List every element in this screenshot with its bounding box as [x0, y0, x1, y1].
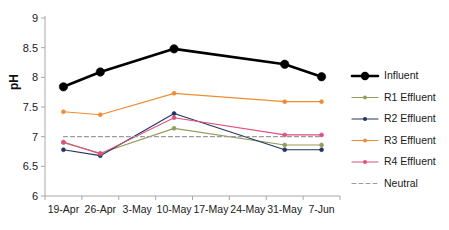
- data-point: [59, 83, 67, 91]
- x-tick-label: 3-May: [123, 203, 153, 215]
- data-point: [317, 73, 325, 81]
- x-tick-label: 10-May: [157, 203, 193, 215]
- chart-legend: InfluentR1 EffluentR2 EffluentR3 Effluen…: [352, 69, 436, 189]
- series-layer: [59, 45, 326, 158]
- y-tick-label: 9: [32, 12, 38, 24]
- legend-swatch-marker: [363, 96, 367, 100]
- y-tick-labels: 66.577.588.59: [23, 12, 38, 202]
- data-point: [172, 116, 176, 120]
- x-tick-label: 7-Jun: [308, 203, 334, 215]
- legend-label: R1 Effluent: [384, 91, 436, 103]
- x-tick-label: 19-Apr: [48, 203, 80, 215]
- legend-item-r4-effluent[interactable]: R4 Effluent: [352, 155, 436, 167]
- legend-item-r1-effluent[interactable]: R1 Effluent: [352, 91, 436, 103]
- data-point: [61, 110, 65, 114]
- data-point: [283, 100, 287, 104]
- legend-label: Neutral: [384, 177, 418, 189]
- ph-line-chart: 66.577.588.59 19-Apr26-Apr3-May10-May17-…: [0, 0, 449, 230]
- data-point: [96, 68, 104, 76]
- y-tick-label: 7.5: [23, 101, 38, 113]
- legend-swatch-marker: [361, 72, 369, 80]
- y-axis-title: pH: [7, 74, 21, 90]
- data-point: [320, 133, 324, 137]
- x-axis-group: 19-Apr26-Apr3-May10-May17-May24-May31-Ma…: [45, 196, 340, 215]
- data-point: [98, 152, 102, 156]
- legend-label: R2 Effluent: [384, 112, 436, 124]
- x-tick-marks: [45, 196, 340, 200]
- x-tick-label: 31-May: [267, 203, 303, 215]
- series-line: [63, 93, 321, 114]
- legend-item-influent[interactable]: Influent: [352, 69, 419, 81]
- y-tick-label: 8.5: [23, 42, 38, 54]
- data-point: [61, 140, 65, 144]
- y-tick-label: 7: [32, 131, 38, 143]
- data-point: [172, 126, 176, 130]
- x-tick-label: 26-Apr: [85, 203, 117, 215]
- data-point: [172, 112, 176, 116]
- legend-swatch-marker: [363, 117, 367, 121]
- legend-label: R3 Effluent: [384, 134, 436, 146]
- series-r3-effluent: [61, 91, 323, 116]
- x-tick-label: 24-May: [230, 203, 266, 215]
- data-point: [320, 100, 324, 104]
- legend-label: Influent: [384, 69, 419, 81]
- y-axis-group: 66.577.588.59: [23, 12, 45, 202]
- y-tick-label: 8: [32, 71, 38, 83]
- legend-item-r3-effluent[interactable]: R3 Effluent: [352, 134, 436, 146]
- data-point: [172, 91, 176, 95]
- data-point: [98, 113, 102, 117]
- data-point: [320, 143, 324, 147]
- chart-canvas: 66.577.588.59 19-Apr26-Apr3-May10-May17-…: [0, 0, 449, 230]
- x-tick-labels: 19-Apr26-Apr3-May10-May17-May24-May31-Ma…: [48, 203, 335, 215]
- y-tick-label: 6.5: [23, 160, 38, 172]
- data-point: [283, 143, 287, 147]
- data-point: [61, 148, 65, 152]
- x-tick-label: 17-May: [193, 203, 229, 215]
- series-influent: [59, 45, 326, 91]
- y-tick-marks: [41, 18, 45, 196]
- data-point: [280, 60, 288, 68]
- y-tick-label: 6: [32, 190, 38, 202]
- legend-item-neutral[interactable]: Neutral: [352, 177, 418, 189]
- data-point: [283, 148, 287, 152]
- legend-swatch-marker: [363, 160, 367, 164]
- legend-label: R4 Effluent: [384, 155, 436, 167]
- data-point: [170, 45, 178, 53]
- legend-swatch-marker: [363, 139, 367, 143]
- data-point: [320, 148, 324, 152]
- legend-item-r2-effluent[interactable]: R2 Effluent: [352, 112, 436, 124]
